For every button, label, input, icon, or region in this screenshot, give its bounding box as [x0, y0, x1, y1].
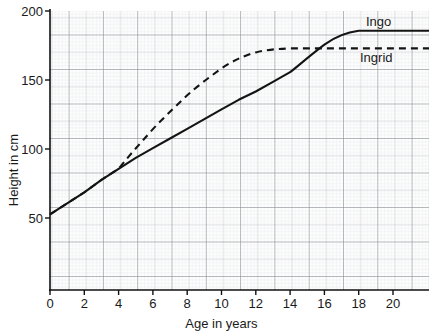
x-tick-label-14: 14	[283, 296, 297, 311]
y-tick-label-50: 50	[29, 211, 43, 226]
x-tick-label-18: 18	[351, 296, 365, 311]
x-tick-label-6: 6	[149, 296, 156, 311]
x-tick-label-10: 10	[214, 296, 228, 311]
y-axis-tick-labels: 200 150 100 50	[21, 4, 43, 226]
x-axis-tick-labels: 0 2 4 6 8 10 12 14 16 18 20	[46, 296, 400, 311]
x-tick-label-2: 2	[81, 296, 88, 311]
y-axis-title: Height in cm	[6, 134, 21, 206]
x-tick-label-16: 16	[317, 296, 331, 311]
growth-chart: 200 150 100 50 0 2 4 6 8 10 12	[0, 0, 429, 335]
legend-label-ingrid: Ingrid	[360, 50, 393, 65]
x-tick-label-8: 8	[184, 296, 191, 311]
x-tick-label-0: 0	[46, 296, 53, 311]
y-tick-label-200: 200	[21, 4, 43, 19]
x-tick-label-12: 12	[249, 296, 263, 311]
x-tick-label-4: 4	[115, 296, 122, 311]
x-axis-title: Age in years	[185, 316, 258, 331]
chart-canvas: 200 150 100 50 0 2 4 6 8 10 12	[0, 0, 429, 335]
x-tick-label-20: 20	[386, 296, 400, 311]
legend-label-ingo: Ingo	[366, 14, 391, 29]
y-tick-label-150: 150	[21, 73, 43, 88]
y-tick-label-100: 100	[21, 142, 43, 157]
